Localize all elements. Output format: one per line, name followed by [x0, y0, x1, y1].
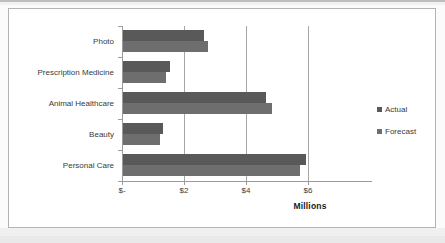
chart-legend[interactable]: Actual Forecast	[377, 105, 437, 149]
legend-label-actual: Actual	[385, 105, 407, 114]
category-label-animal-healthcare: Animal Healthcare	[0, 99, 114, 109]
value-axis-line	[122, 181, 372, 182]
category-label-personal-care: Personal Care	[0, 161, 114, 171]
legend-item-forecast[interactable]: Forecast	[377, 127, 437, 136]
bar-photo-forecast[interactable]	[123, 41, 208, 52]
category-label-beauty: Beauty	[0, 130, 114, 140]
legend-item-actual[interactable]: Actual	[377, 105, 437, 114]
category-tick-2	[118, 88, 122, 89]
value-tick-2	[184, 181, 185, 185]
bar-animal-healthcare-forecast[interactable]	[123, 103, 272, 114]
bar-personal-care-actual[interactable]	[123, 154, 306, 165]
bar-personal-care-forecast[interactable]	[123, 165, 300, 176]
legend-label-forecast: Forecast	[385, 127, 416, 136]
value-tick-4	[246, 181, 247, 185]
bar-beauty-actual[interactable]	[123, 123, 163, 134]
value-axis-label-0: $-	[102, 186, 142, 195]
legend-swatch-icon-actual	[377, 107, 382, 112]
category-tick-4	[118, 150, 122, 151]
value-tick-0	[122, 181, 123, 185]
plot-area: Photo Prescription Medicine Animal Healt…	[9, 9, 437, 229]
value-axis-label-2: $2	[164, 186, 204, 195]
bar-beauty-forecast[interactable]	[123, 134, 160, 145]
value-tick-6	[308, 181, 309, 185]
bar-prescription-medicine-actual[interactable]	[123, 61, 170, 72]
category-label-photo: Photo	[0, 37, 114, 47]
category-label-prescription-medicine: Prescription Medicine	[0, 68, 114, 78]
category-tick-3	[118, 119, 122, 120]
category-tick-1	[118, 57, 122, 58]
bar-prescription-medicine-forecast[interactable]	[123, 72, 166, 83]
category-tick-0	[118, 26, 122, 27]
bar-animal-healthcare-actual[interactable]	[123, 92, 266, 103]
value-axis-label-4: $4	[226, 186, 266, 195]
bar-photo-actual[interactable]	[123, 30, 204, 41]
value-axis-title: Millions	[262, 201, 358, 211]
legend-swatch-icon-forecast	[377, 129, 382, 134]
value-axis-label-6: $6	[288, 186, 328, 195]
gridline-x-6	[308, 26, 309, 181]
chart-container[interactable]: Photo Prescription Medicine Animal Healt…	[8, 8, 436, 228]
